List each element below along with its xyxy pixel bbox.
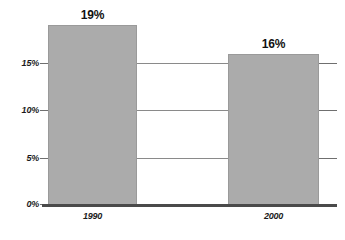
xtick-label-1990: 1990	[48, 211, 137, 221]
ytick-label-5: 5%	[26, 153, 39, 163]
bar-1990	[48, 25, 137, 205]
bar-value-2000: 16%	[228, 37, 319, 51]
bar-value-1990: 19%	[48, 8, 137, 22]
ytick-mark-right-15	[319, 63, 337, 64]
ytick-mark-right-10	[319, 110, 337, 111]
bar-2000	[228, 54, 319, 205]
ytick-label-10: 10%	[22, 105, 39, 115]
bar-chart: 15% 10% 5% 0% 19% 16% 1990 2000	[0, 0, 345, 240]
ytick-mark-right-5	[319, 158, 337, 159]
plot-area: 15% 10% 5% 0% 19% 16% 1990 2000	[0, 0, 345, 240]
xtick-label-2000: 2000	[228, 211, 319, 221]
ytick-label-15: 15%	[22, 58, 39, 68]
x-axis-baseline	[42, 204, 337, 207]
ytick-label-0: 0%	[26, 199, 39, 209]
